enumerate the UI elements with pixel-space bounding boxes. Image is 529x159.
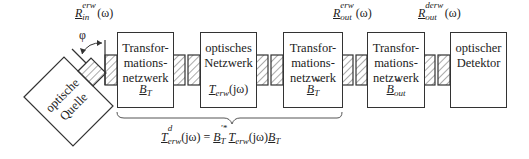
- block1-symbol: BT: [118, 82, 173, 101]
- r-out-arg: (ω): [356, 6, 372, 20]
- eq-t1-sup: '*: [221, 123, 227, 133]
- curly-brace: [117, 112, 342, 124]
- block-optical-detector: optischer Detektor: [450, 32, 507, 108]
- block4-line2: mations-: [368, 56, 424, 71]
- label-r-dout: Rderwout(ω): [418, 6, 461, 22]
- block3-line2: mations-: [284, 56, 342, 71]
- block1-line2: mations-: [118, 56, 173, 71]
- block1-sym-sub: T: [147, 88, 152, 98]
- block-transform-network-bout: Transfor- mations- netzwerk B'*out: [367, 32, 425, 108]
- eq-lhs-sup: d: [168, 123, 173, 133]
- block-transform-network-bt: Transfor- mations- netzwerk BT: [117, 32, 174, 108]
- r-out-sub: out: [340, 12, 352, 22]
- label-r-out: Rerwout(ω): [333, 6, 372, 22]
- r-in-sup: erw: [82, 0, 96, 10]
- eq-lhs-base: T: [161, 130, 168, 144]
- block1-sym-base: B: [139, 82, 146, 96]
- r-dout-arg: (ω): [445, 6, 461, 20]
- block3-sym-sup: '*: [314, 75, 320, 90]
- r-in-sub: in: [82, 12, 89, 22]
- block4-symbol: B'*out: [368, 82, 424, 101]
- block2-line1: optisches: [201, 41, 256, 56]
- block4-sym-base: B: [387, 82, 394, 96]
- r-dout-sub: out: [425, 12, 437, 22]
- block4-sym-sup: '*: [394, 75, 400, 90]
- eq-t2-arg: (jω): [249, 130, 268, 144]
- label-r-in: Rerwin(ω): [75, 6, 113, 22]
- eq-t1-sub: T: [221, 136, 226, 146]
- angle-phi: φ: [79, 28, 86, 43]
- r-in-arg: (ω): [97, 6, 113, 20]
- block-transform-network-bt-conj: Transfor- mations- netzwerk B'*T: [283, 32, 343, 108]
- block2-symbol: Terw(jω): [201, 82, 256, 101]
- block3-line1: Transfor-: [284, 41, 342, 56]
- block3-symbol: B'*T: [284, 82, 342, 101]
- block4-line1: Transfor-: [368, 41, 424, 56]
- r-dout-sup: derw: [425, 0, 443, 10]
- eq-t2-sub: erw: [235, 136, 249, 146]
- equation: Tderw(jω) = B'*T Terw(jω)BT: [161, 130, 280, 146]
- block5-line2: Detektor: [451, 56, 506, 71]
- block5-line1: optischer: [451, 41, 506, 56]
- eq-lhs-arg: (jω): [181, 130, 200, 144]
- block2-sym-arg: (jω): [229, 82, 248, 96]
- block2-sym-sub: erw: [215, 88, 229, 98]
- block-optical-network: optisches Netzwerk Terw(jω): [200, 32, 257, 108]
- eq-t1-base: B: [213, 130, 220, 144]
- block1-line1: Transfor-: [118, 41, 173, 56]
- eq-lhs-sub: erw: [168, 136, 182, 146]
- block2-line2: Netzwerk: [201, 56, 256, 71]
- r-out-sup: erw: [340, 0, 354, 10]
- eq-equals: =: [200, 130, 213, 144]
- eq-t3-sub: T: [275, 136, 280, 146]
